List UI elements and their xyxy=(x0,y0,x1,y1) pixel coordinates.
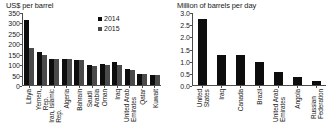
x-label-cell: Angola xyxy=(289,89,308,136)
x-tick-mark xyxy=(123,86,136,88)
x-label-cell: Iraq xyxy=(212,89,231,136)
y-tick-label: 100 xyxy=(8,62,20,69)
x-axis-category-label: Libya xyxy=(26,89,33,104)
x-tick-mark xyxy=(212,86,231,88)
y-tick-mark xyxy=(20,23,22,24)
x-axis-category-label: Bahrain xyxy=(76,89,83,111)
y-tick-mark xyxy=(190,13,192,14)
legend: 2014 2015 xyxy=(98,14,120,34)
legend-label-2015: 2015 xyxy=(104,24,120,33)
y-tick-label: 350 xyxy=(8,10,20,17)
x-tick-mark xyxy=(111,86,124,88)
x-tick-mark xyxy=(136,86,149,88)
bar-group xyxy=(61,13,74,85)
x-label-cell: Iran, IslamicRep. xyxy=(48,89,61,136)
x-axis-category-label: Oman xyxy=(102,89,109,106)
bar xyxy=(198,19,207,85)
chart-panel-left: US$ per barrel 350300250200150100500 Lib… xyxy=(0,0,167,136)
x-axis-category-label: United ArabEmirates xyxy=(123,89,137,122)
bar-group xyxy=(86,13,99,85)
x-tick-mark xyxy=(193,86,212,88)
x-axis-category-label: Brazil xyxy=(256,89,263,105)
bar-group xyxy=(136,13,149,85)
legend-swatch-2014-icon xyxy=(98,17,102,21)
bar-group xyxy=(307,13,326,85)
x-axis-category-label: Kuwait xyxy=(152,89,159,108)
right-category-labels: UnitedStatesIraqCanadaBrazilUnited ArabE… xyxy=(193,89,327,136)
legend-item-2014: 2014 xyxy=(98,14,120,23)
x-label-cell: Brazil xyxy=(250,89,269,136)
bar xyxy=(29,48,34,85)
bar xyxy=(117,65,122,85)
y-tick-mark xyxy=(190,86,192,87)
dual-bar-chart-figure: US$ per barrel 350300250200150100500 Lib… xyxy=(0,0,334,136)
y-tick-label: 2.0 xyxy=(180,34,190,41)
x-label-cell: Qatar xyxy=(137,89,150,136)
bar xyxy=(130,70,135,85)
bar xyxy=(92,66,97,85)
bar xyxy=(255,62,264,85)
bar xyxy=(67,59,72,85)
x-label-cell: Kuwait xyxy=(149,89,162,136)
y-tick-label: 200 xyxy=(8,41,20,48)
x-label-cell: Oman xyxy=(99,89,112,136)
y-tick-mark xyxy=(190,74,192,75)
bar xyxy=(105,65,110,85)
y-tick-label: 3.0 xyxy=(180,10,190,17)
y-tick-mark xyxy=(20,55,22,56)
x-axis-category-label: SaudiArabia xyxy=(85,89,99,107)
legend-item-2015: 2015 xyxy=(98,24,120,33)
y-tick-mark xyxy=(190,37,192,38)
legend-label-2014: 2014 xyxy=(104,14,120,23)
bar xyxy=(293,77,302,85)
y-tick-label: 1.0 xyxy=(180,58,190,65)
y-tick-mark xyxy=(20,44,22,45)
bar-group xyxy=(212,13,231,85)
bar xyxy=(217,55,226,85)
x-tick-mark xyxy=(23,86,36,88)
x-tick-mark xyxy=(86,86,99,88)
left-plot-area: 350300250200150100500 xyxy=(22,13,161,86)
x-label-cell: UnitedStates xyxy=(193,89,212,136)
bar-group xyxy=(73,13,86,85)
x-tick-mark xyxy=(269,86,288,88)
x-tick-mark xyxy=(231,86,250,88)
chart-panel-right: Million of barrels per day 3.02.52.01.51… xyxy=(167,0,334,136)
x-tick-mark xyxy=(48,86,61,88)
bar xyxy=(236,55,245,85)
y-tick-label: 300 xyxy=(8,20,20,27)
bar xyxy=(312,81,321,85)
x-axis-category-label: UnitedStates xyxy=(195,89,209,107)
bar-group xyxy=(288,13,307,85)
x-label-cell: Algeria xyxy=(61,89,74,136)
x-axis-category-label: RussianFederation xyxy=(310,89,324,119)
x-label-cell: United ArabEmirates xyxy=(270,89,289,136)
x-label-cell: Libya xyxy=(23,89,36,136)
x-axis-category-label: Iraq xyxy=(218,89,225,100)
left-category-labels: LibyaYemen,Rep.Iran, IslamicRep.AlgeriaB… xyxy=(23,89,162,136)
x-label-cell: Yemen,Rep. xyxy=(36,89,49,136)
x-label-cell: SaudiArabia xyxy=(86,89,99,136)
left-bars-container xyxy=(23,13,161,85)
x-tick-mark xyxy=(307,86,326,88)
y-tick-label: 0.5 xyxy=(180,70,190,77)
y-tick-mark xyxy=(190,50,192,51)
x-label-cell: United ArabEmirates xyxy=(124,89,137,136)
y-tick-mark xyxy=(190,25,192,26)
y-tick-mark xyxy=(190,62,192,63)
bar xyxy=(79,60,84,86)
x-tick-mark xyxy=(73,86,86,88)
x-label-cell: RussianFederation xyxy=(308,89,327,136)
x-tick-mark xyxy=(98,86,111,88)
bar-group xyxy=(231,13,250,85)
x-axis-category-label: Algeria xyxy=(64,89,71,109)
bar xyxy=(42,55,47,85)
x-axis-category-label: Iraq xyxy=(114,89,121,100)
bar xyxy=(155,75,160,85)
bar-group xyxy=(123,13,136,85)
y-tick-mark xyxy=(20,34,22,35)
bar-group xyxy=(23,13,36,85)
x-tick-mark xyxy=(36,86,49,88)
y-tick-label: 150 xyxy=(8,51,20,58)
x-tick-mark xyxy=(148,86,161,88)
